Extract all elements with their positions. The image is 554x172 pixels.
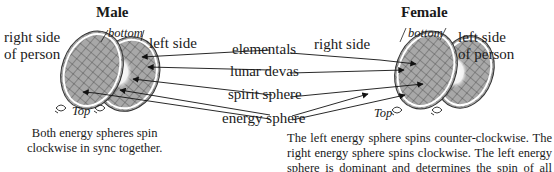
male-bottom-label: bottom [108, 26, 143, 41]
female-bottom-label: bottom [408, 26, 443, 41]
male-caption: Both energy spheres spin clockwise in sy… [27, 126, 162, 156]
male-top-label: Top [72, 104, 90, 119]
male-spin-loop-icon [55, 105, 66, 113]
energy-sphere-label: energy sphere [222, 110, 305, 127]
female-title: Female [401, 4, 448, 21]
spirit-sphere-label: spirit sphere [228, 86, 302, 103]
female-right-side-label: right side [314, 36, 370, 53]
male-caption-line1: Both energy spheres spin [27, 126, 162, 141]
male-right-side-label: right side of person [4, 29, 60, 63]
female-left-side-line1: left side [458, 29, 514, 46]
female-caption: The left energy sphere spins counter-clo… [287, 131, 552, 172]
female-top-label: Top [374, 106, 392, 121]
lunar-devas-label: lunar devas [230, 63, 299, 80]
elementals-label: elementals [232, 41, 296, 58]
male-caption-line2: clockwise in sync together. [27, 141, 162, 156]
female-left-side-line2: of person [458, 46, 514, 63]
female-left-side-label: left side of person [458, 29, 514, 63]
male-left-side-label: left side [149, 35, 197, 52]
female-spin-loop-icon [391, 107, 402, 115]
male-right-side-line2: of person [4, 46, 60, 63]
male-right-side-line1: right side [4, 29, 60, 46]
male-title: Male [96, 4, 128, 21]
